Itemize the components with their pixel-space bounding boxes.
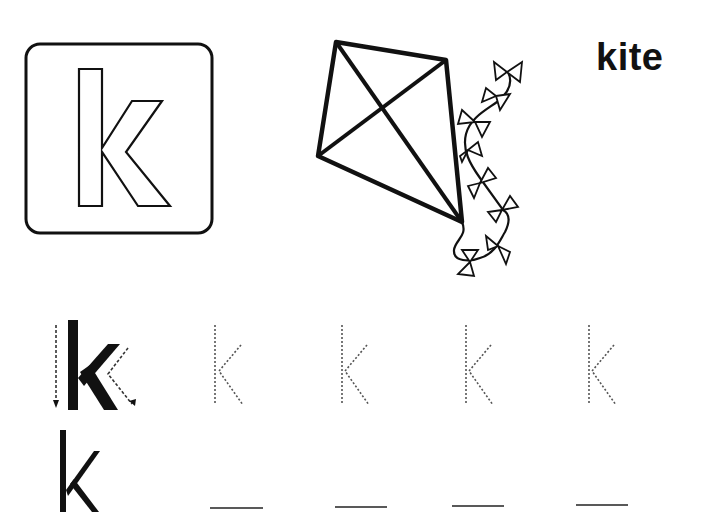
model-letter-k-write-row xyxy=(60,430,100,512)
vocabulary-word: kite xyxy=(596,36,663,79)
trace-letter[interactable] xyxy=(466,325,493,405)
letter-card xyxy=(26,44,212,233)
trace-letter[interactable] xyxy=(342,325,369,405)
trace-letter[interactable] xyxy=(589,325,616,405)
model-letter-k-trace-row xyxy=(68,320,120,410)
outlined-letter-k xyxy=(79,69,170,206)
write-blanks xyxy=(210,505,628,508)
diagonal-arrowhead-icon xyxy=(129,399,136,406)
down-arrowhead-icon xyxy=(53,400,59,408)
diagonal-stroke-arrow xyxy=(108,348,132,404)
kite-illustration xyxy=(318,42,522,276)
kite-tail-bows xyxy=(458,62,522,276)
trace-letter[interactable] xyxy=(215,325,243,405)
